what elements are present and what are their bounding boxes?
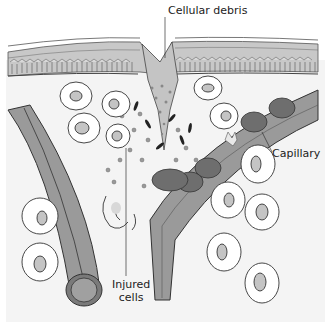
injured-cells-label-line2: cells: [112, 291, 150, 304]
injured-cells-label-line1: Injured: [112, 278, 150, 291]
capillary-label: Capillary: [272, 147, 320, 160]
injured-cells-label: Injured cells: [112, 278, 150, 304]
cellular-debris-label: Cellular debris: [168, 4, 247, 17]
tissue-injury-diagram: [0, 0, 325, 329]
